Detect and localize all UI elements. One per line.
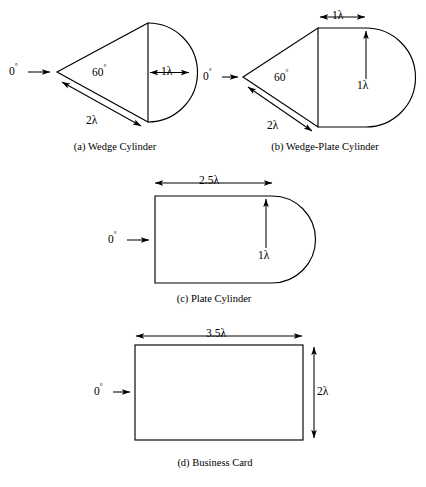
panel-business-card: 0° 3.5λ 2λ (d) Business Card (94, 327, 329, 470)
slant-dim-label-a: 2λ (86, 114, 98, 126)
plate-length-dim-label-b: 1λ (332, 9, 344, 21)
slant-dim-label-b: 2λ (267, 119, 279, 131)
incidence-label-d: 0° (94, 382, 103, 396)
wedge-plate-body-outline (318, 28, 416, 127)
figure-root: 0° 60° 2λ 1λ (a) Wedge Cylinder (0, 0, 426, 487)
antenna-geometry-figure: 0° 60° 2λ 1λ (a) Wedge Cylinder (0, 0, 426, 487)
plate-height-dim-label-c: 1λ (258, 249, 270, 261)
panel-plate-cylinder: 0° 2.5λ 1λ (c) Plate Cylinder (108, 174, 316, 306)
incidence-label-c: 0° (108, 230, 117, 244)
plate-height-dim-label-b: 1λ (357, 79, 369, 91)
height-dim-label-d: 2λ (317, 385, 329, 397)
diameter-dim-label-a: 1λ (161, 65, 173, 77)
slant-dim-line-b (248, 87, 312, 131)
width-dim-label-d: 3.5λ (206, 327, 226, 339)
panel-wedge-plate-cylinder: 0° 60° 2λ 1λ 1λ (b) Wedge-Plate Cylinder (203, 9, 416, 154)
incidence-label-a: 0° (9, 62, 18, 76)
plate-length-dim-label-c: 2.5λ (199, 174, 219, 186)
caption-a: (a) Wedge Cylinder (74, 141, 157, 153)
incidence-label-b: 0° (203, 67, 212, 81)
panel-wedge-cylinder: 0° 60° 2λ 1λ (a) Wedge Cylinder (9, 23, 198, 153)
plate-cylinder-outline (155, 196, 316, 283)
business-card-outline (135, 345, 303, 440)
caption-d: (d) Business Card (177, 457, 253, 469)
angle-label-a: 60° (92, 63, 107, 77)
slant-dim-line-a (62, 82, 141, 126)
caption-c: (c) Plate Cylinder (177, 293, 252, 305)
caption-b: (b) Wedge-Plate Cylinder (271, 141, 379, 153)
angle-label-b: 60° (274, 68, 289, 82)
